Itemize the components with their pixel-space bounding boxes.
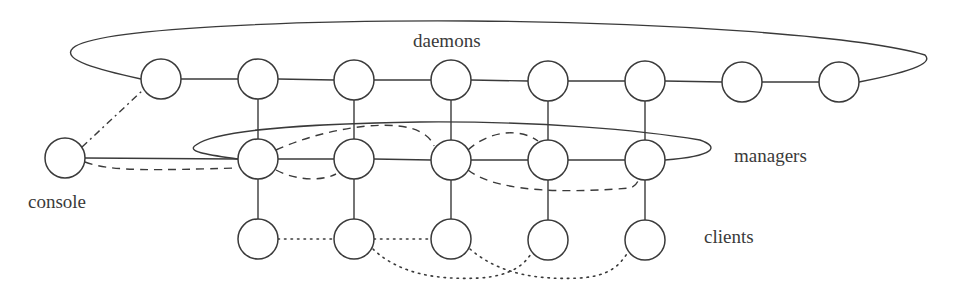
manager-node xyxy=(431,140,471,180)
manager-node xyxy=(334,139,374,179)
daemon-node xyxy=(722,62,762,102)
daemon-node xyxy=(238,59,278,99)
client-node xyxy=(238,219,278,259)
daemon-node xyxy=(625,61,665,101)
client-node xyxy=(431,219,471,259)
manager-node xyxy=(625,140,665,180)
daemons-label: daemons xyxy=(413,30,481,52)
manager-client-edges xyxy=(258,179,645,220)
console-daemon-link xyxy=(82,90,143,147)
managers-label: managers xyxy=(734,145,807,167)
daemon-node xyxy=(528,61,568,101)
console-node xyxy=(45,138,85,178)
client-node xyxy=(334,219,374,259)
daemon-node xyxy=(819,62,859,102)
manager-node xyxy=(528,140,568,180)
daemons-group-outline xyxy=(71,21,927,82)
client-nodes xyxy=(238,219,665,260)
daemon-node xyxy=(431,60,471,100)
daemon-node xyxy=(141,59,181,99)
clients-label: clients xyxy=(704,226,754,248)
manager-node xyxy=(238,139,278,179)
client-node xyxy=(625,220,665,260)
daemon-node xyxy=(334,60,374,100)
client-node xyxy=(528,220,568,260)
console-label: console xyxy=(28,191,86,213)
daemon-manager-edges xyxy=(258,99,645,140)
network-diagram xyxy=(0,0,969,294)
